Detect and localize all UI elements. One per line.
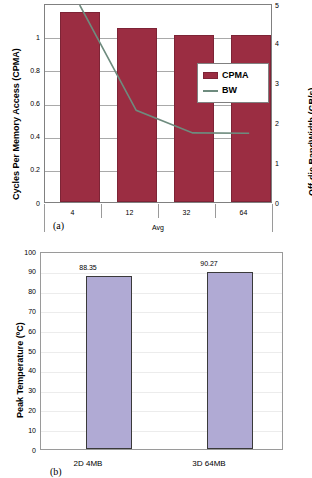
legend-label-bw: BW bbox=[222, 86, 237, 95]
figure-a-left-ytick-1: 1 bbox=[14, 34, 40, 41]
legend-item-bw: BW bbox=[203, 83, 268, 98]
figure-a-xtick-4: 4 bbox=[44, 209, 101, 216]
x-divider bbox=[272, 204, 273, 232]
figure-b-ytick-10: 10 bbox=[16, 427, 36, 434]
figure-a-left-ytick-0.8: 0.8 bbox=[14, 67, 40, 74]
figure-a-caption: (a) bbox=[53, 220, 64, 231]
figure-b-chart: Peak Temperature (ºC) 0 10 20 30 40 50 6… bbox=[0, 238, 312, 478]
figure-a-chart: Cycles Per Memory Access (CPMA) Off-die … bbox=[0, 0, 312, 238]
figure-b-ytick-90: 90 bbox=[16, 268, 36, 275]
figure-b-ytick-70: 70 bbox=[16, 308, 36, 315]
legend-label-cpma: CPMA bbox=[222, 71, 249, 80]
figure-b-xtick-3d-64mb: 3D 64MB bbox=[159, 460, 259, 467]
bar-value-2d-4mb: 88.35 bbox=[55, 264, 121, 271]
figure-a-x-axis-title: Avg bbox=[128, 224, 188, 231]
figure-a-right-ytick-0: 0 bbox=[275, 200, 285, 207]
bar-temp-3d-64mb bbox=[207, 272, 253, 449]
figure-b-ytick-0: 0 bbox=[16, 447, 36, 454]
figure-a-right-ytick-2: 2 bbox=[275, 120, 285, 127]
bar-temp-2d-4mb bbox=[86, 276, 132, 449]
figure-a-plot-area: CPMA BW bbox=[44, 4, 272, 203]
figure-b-caption: (b) bbox=[50, 466, 62, 477]
figure-a-right-ytick-4: 4 bbox=[275, 40, 285, 47]
figure-a-left-ytick-0.4: 0.4 bbox=[14, 133, 40, 140]
figure-a-left-ytick-0.6: 0.6 bbox=[14, 100, 40, 107]
figure-a-right-ytick-5: 5 bbox=[275, 2, 285, 9]
figure-b-ytick-30: 30 bbox=[16, 387, 36, 394]
figure-b-ytick-20: 20 bbox=[16, 407, 36, 414]
figure-b-ytick-50: 50 bbox=[16, 348, 36, 355]
figure-b-ytick-40: 40 bbox=[16, 367, 36, 374]
legend-line-swatch-icon bbox=[203, 90, 218, 92]
figure-a-xtick-12: 12 bbox=[101, 209, 158, 216]
figure-a-left-ytick-0.2: 0.2 bbox=[14, 166, 40, 173]
figure-a-right-axis-title: Off-die BandWidth (GB/s) bbox=[307, 88, 312, 196]
figure-b-plot-area bbox=[40, 252, 283, 450]
legend-item-cpma: CPMA bbox=[203, 68, 268, 83]
figure-a-right-ytick-3: 3 bbox=[275, 80, 285, 87]
bar-value-3d-64mb: 90.27 bbox=[176, 260, 242, 267]
figure-a-xtick-32: 32 bbox=[158, 209, 215, 216]
figure-a-xtick-64: 64 bbox=[215, 209, 272, 216]
figure-a-legend: CPMA BW bbox=[197, 63, 269, 103]
figure-b-ytick-100: 100 bbox=[14, 249, 36, 256]
figure-b-ytick-60: 60 bbox=[16, 328, 36, 335]
legend-bar-swatch-icon bbox=[203, 72, 218, 79]
figure-a-right-ytick-1: 1 bbox=[275, 160, 285, 167]
figure-a-left-ytick-0: 0 bbox=[14, 200, 40, 207]
bw-line-series bbox=[45, 5, 271, 202]
figure-b-ytick-80: 80 bbox=[16, 288, 36, 295]
